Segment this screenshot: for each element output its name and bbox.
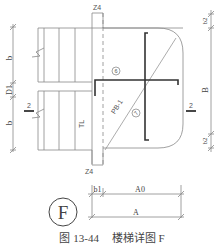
figure-title: 楼梯详图 F (112, 232, 165, 244)
figure-caption: 图 13-44 楼梯详图 F (0, 229, 224, 245)
section-mark-right: 2 (186, 102, 196, 111)
stair-detail-drawing: b D1 b 2 TL Z4 Z4 (0, 0, 224, 230)
svg-text:F: F (58, 202, 69, 223)
callout-7: 7 (132, 109, 140, 117)
column-label-bottom: Z4 (85, 168, 93, 175)
svg-text:2: 2 (27, 102, 31, 109)
dim-A: A (133, 208, 139, 217)
dim-d1: D1 (5, 85, 14, 95)
tl-label: TL (78, 120, 85, 128)
detail-symbol-circle: F (49, 198, 77, 226)
dim-b-bottom: b (4, 120, 14, 125)
svg-text:6: 6 (114, 68, 117, 74)
svg-text:2: 2 (189, 102, 193, 109)
column-label-top: Z4 (93, 4, 101, 11)
right-dimension-chain (208, 10, 214, 152)
dim-B: B (200, 87, 210, 93)
callout-6: 6 (112, 67, 120, 75)
figure-number: 图 13-44 (59, 232, 98, 244)
stair-flights (32, 28, 183, 150)
dim-b-top: b (4, 55, 14, 60)
dim-A0: A0 (135, 185, 145, 194)
dim-b2-top: b2 (201, 17, 209, 25)
dim-b1: b1 (94, 185, 102, 194)
dim-b2-bottom: b2 (201, 137, 209, 145)
slab-label-pb1: PB-1 (110, 98, 124, 115)
slab-diagonal (105, 38, 176, 150)
column-z4 (92, 13, 103, 165)
reinforcement-bars (95, 33, 178, 140)
svg-text:7: 7 (133, 110, 140, 116)
section-mark-left: 2 (24, 102, 34, 111)
